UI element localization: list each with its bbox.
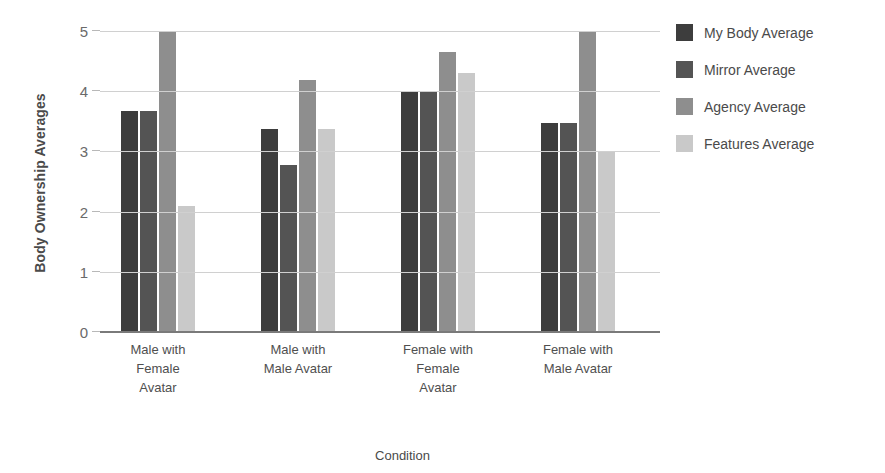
x-axis-category-label: Male withFemaleAvatar: [88, 340, 228, 397]
plot-area: [100, 31, 660, 332]
x-axis-category-label-line: Male with: [88, 340, 228, 359]
bar-group: [240, 31, 380, 332]
x-axis-category-label-line: Avatar: [88, 378, 228, 397]
bar-group: [380, 31, 520, 332]
y-axis-ticks: 012345: [0, 31, 100, 332]
y-tick-mark: [92, 211, 100, 212]
y-tick-label: 0: [58, 324, 88, 341]
bar: [280, 165, 297, 332]
legend-item[interactable]: Agency Average: [676, 88, 881, 125]
gridline: [100, 272, 660, 273]
bar: [458, 73, 475, 332]
gridline: [100, 151, 660, 152]
x-axis-category-label-line: Female: [88, 359, 228, 378]
bar-group: [520, 31, 660, 332]
y-tick-mark: [92, 90, 100, 91]
y-tick-label: 3: [58, 143, 88, 160]
legend-label: Agency Average: [704, 99, 806, 115]
gridline: [100, 31, 660, 32]
bar: [261, 129, 278, 332]
x-axis-title: Condition: [150, 448, 655, 463]
bar: [178, 206, 195, 332]
x-axis-category-label-line: Female: [368, 359, 508, 378]
x-axis-category-label-line: Female with: [508, 340, 648, 359]
bar-group: [100, 31, 240, 332]
legend-swatch-icon: [676, 98, 693, 115]
y-tick-label: 2: [58, 203, 88, 220]
bar: [121, 111, 138, 332]
y-tick-label: 1: [58, 263, 88, 280]
x-axis-line: [100, 331, 660, 333]
gridline: [100, 91, 660, 92]
bar: [318, 129, 335, 332]
legend-item[interactable]: My Body Average: [676, 14, 881, 51]
x-axis-category-label: Female withMale Avatar: [508, 340, 648, 378]
y-tick-mark: [92, 150, 100, 151]
legend-item[interactable]: Mirror Average: [676, 51, 881, 88]
y-tick-mark: [92, 271, 100, 272]
x-axis-category-label-line: Female with: [368, 340, 508, 359]
x-axis-category-labels: Male withFemaleAvatarMale withMale Avata…: [100, 340, 660, 410]
legend-swatch-icon: [676, 24, 693, 41]
bar-groups: [100, 31, 660, 332]
bar: [598, 151, 615, 332]
bar: [560, 123, 577, 332]
y-tick-label: 4: [58, 83, 88, 100]
bar: [579, 31, 596, 332]
legend-label: Mirror Average: [704, 62, 796, 78]
bar: [299, 80, 316, 332]
y-tick-label: 5: [58, 23, 88, 40]
bar: [541, 123, 558, 332]
x-axis-category-label-line: Avatar: [368, 378, 508, 397]
x-axis-category-label: Female withFemaleAvatar: [368, 340, 508, 397]
x-axis-category-label: Male withMale Avatar: [228, 340, 368, 378]
y-tick-mark: [92, 30, 100, 31]
y-tick-mark: [92, 331, 100, 332]
x-axis-category-label-line: Male Avatar: [508, 359, 648, 378]
legend-label: Features Average: [704, 136, 814, 152]
chart-legend: My Body AverageMirror AverageAgency Aver…: [676, 14, 881, 162]
x-axis-category-label-line: Male Avatar: [228, 359, 368, 378]
bar-chart: Body Ownership Averages 012345 Male with…: [0, 0, 885, 473]
legend-item[interactable]: Features Average: [676, 125, 881, 162]
legend-label: My Body Average: [704, 25, 813, 41]
bar: [159, 31, 176, 332]
x-axis-category-label-line: Male with: [228, 340, 368, 359]
bar: [439, 52, 456, 332]
bar: [140, 111, 157, 332]
legend-swatch-icon: [676, 61, 693, 78]
gridline: [100, 212, 660, 213]
legend-swatch-icon: [676, 135, 693, 152]
